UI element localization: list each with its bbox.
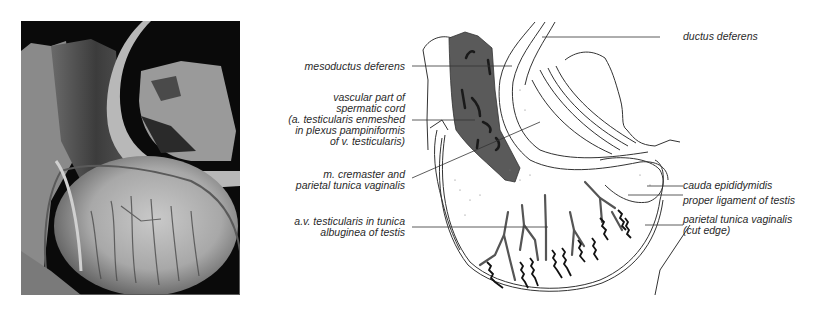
anatomy-drawing [0,0,814,310]
label-vascular-part: vascular part of spermatic cord (a. test… [288,92,405,147]
label-av-testicularis: a.v. testicularis in tunica albuginea of… [294,216,405,238]
label-proper-ligament: proper ligament of testis [683,195,795,206]
right-tissue-outline [565,52,680,146]
label-ductus-deferens: ductus deferens [683,31,758,42]
label-parietal-tunica-vaginalis: parietal tunica vaginalis (cut edge) [683,214,792,236]
label-cremaster: m. cremaster and parietal tunica vaginal… [296,169,405,191]
label-cauda-epididymidis: cauda epididymidis [683,180,772,191]
label-mesoductus-deferens: mesoductus deferens [305,61,405,72]
